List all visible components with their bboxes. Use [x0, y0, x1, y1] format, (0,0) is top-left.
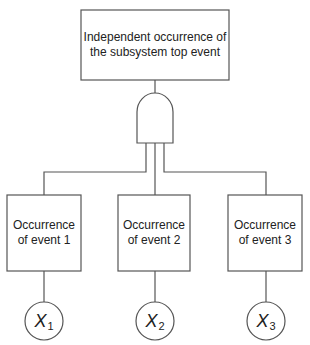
variable-subscript: 2	[158, 320, 164, 332]
connector-gate-to-event-3	[164, 143, 266, 195]
and-gate-icon	[137, 93, 173, 143]
event-3-label: Occurrence of event 3	[228, 195, 302, 271]
variable-symbol: X	[34, 311, 46, 332]
event-2-label: Occurrence of event 2	[118, 195, 190, 271]
basic-event-x3-label: X3	[247, 302, 285, 340]
variable-symbol: X	[145, 311, 157, 332]
top-event-label: Independent occurrence of the subsystem …	[81, 10, 229, 80]
connector-gate-to-event-1	[44, 143, 146, 195]
variable-symbol: X	[256, 311, 268, 332]
variable-subscript: 1	[47, 320, 53, 332]
variable-subscript: 3	[269, 320, 275, 332]
event-1-label: Occurrence of event 1	[7, 195, 81, 271]
basic-event-x2-label: X2	[136, 302, 174, 340]
basic-event-x1-label: X1	[25, 302, 63, 340]
